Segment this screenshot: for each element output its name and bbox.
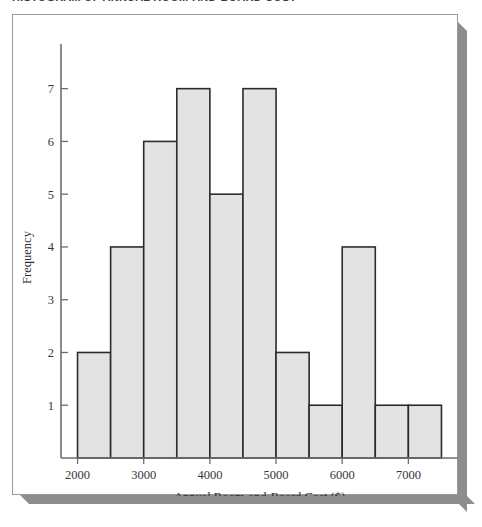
panel-shadow-bottom bbox=[20, 495, 475, 504]
histogram-bar bbox=[243, 89, 276, 458]
x-tick-label: 3000 bbox=[131, 468, 156, 482]
panel-shadow-right bbox=[458, 22, 467, 512]
histogram-bar bbox=[177, 89, 210, 458]
x-tick-label: 2000 bbox=[65, 468, 90, 482]
y-tick-label: 5 bbox=[48, 188, 54, 202]
x-tick-label: 4000 bbox=[197, 468, 222, 482]
figure-panel: 1234567 200030004000500060007000 Annual … bbox=[12, 14, 458, 495]
y-axis-title: Frequency bbox=[20, 230, 34, 284]
histogram-bar bbox=[408, 405, 441, 458]
histogram-bar bbox=[342, 247, 375, 458]
x-tick-label: 7000 bbox=[396, 468, 421, 482]
y-axis-group: 1234567 bbox=[48, 82, 68, 413]
histogram-bar bbox=[375, 405, 408, 458]
histogram-plot: 1234567 200030004000500060007000 Annual … bbox=[13, 15, 459, 496]
y-tick-label: 3 bbox=[48, 293, 54, 307]
x-tick-label: 6000 bbox=[330, 468, 355, 482]
y-tick-label: 4 bbox=[48, 240, 55, 254]
bars-group bbox=[78, 89, 442, 458]
histogram-bar bbox=[276, 352, 309, 458]
histogram-svg: 1234567 200030004000500060007000 Annual … bbox=[13, 15, 459, 496]
histogram-bar bbox=[78, 352, 111, 458]
y-tick-label: 2 bbox=[48, 346, 54, 360]
x-axis-title: Annual Room-and-Board Cost ($) bbox=[174, 490, 345, 496]
x-tick-label: 5000 bbox=[264, 468, 289, 482]
y-tick-label: 6 bbox=[48, 135, 54, 149]
y-tick-label: 7 bbox=[48, 82, 54, 96]
histogram-bar bbox=[144, 141, 177, 458]
histogram-bar bbox=[111, 247, 144, 458]
y-tick-label: 1 bbox=[48, 399, 54, 413]
histogram-bar bbox=[210, 194, 243, 458]
x-axis-group: 200030004000500060007000 bbox=[65, 458, 421, 482]
histogram-bar bbox=[309, 405, 342, 458]
figure-title: HISTOGRAM OF ANNUAL ROOM-AND-BOARD COST bbox=[12, 0, 472, 5]
